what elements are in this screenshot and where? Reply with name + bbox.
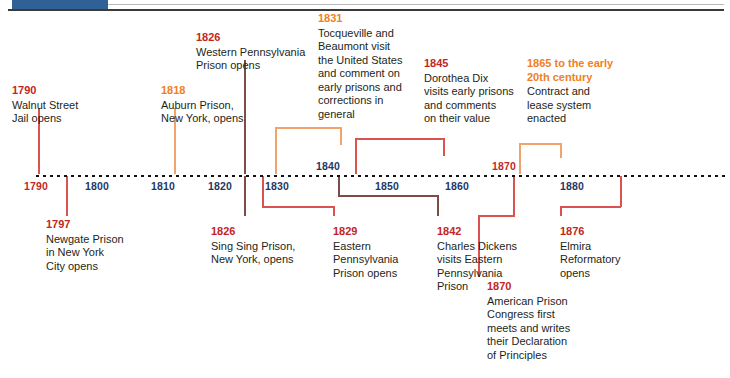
- event-text: Dorothea Dix visits early prisons and co…: [424, 72, 524, 126]
- axis-tick-1820: 1820: [208, 180, 232, 192]
- connector-1797: [66, 176, 68, 216]
- connector-1876-tick: [620, 176, 622, 207]
- event-text: Elmira Reformatory opens: [560, 240, 660, 281]
- event-text: Western Pennsylvania Prison opens: [196, 46, 316, 73]
- connector-1865-tick: [519, 143, 521, 174]
- axis-tick-1810: 1810: [151, 180, 175, 192]
- connector-1842-tick: [338, 176, 340, 196]
- connector-1829-elbow: [262, 206, 334, 208]
- connector-1870-elbow: [478, 215, 515, 217]
- connector-1842-elbow: [338, 195, 438, 197]
- event-below-1829: 1829 Eastern Pennsylvania Prison opens: [333, 225, 433, 280]
- event-text: Walnut Street Jail opens: [12, 99, 122, 126]
- connector-1876-elbow: [560, 206, 621, 208]
- connector-1870-tick: [513, 176, 515, 216]
- event-above-1831: 1831 Tocqueville and Beaumont visit the …: [318, 12, 410, 121]
- axis-tick-1840: 1840: [316, 160, 340, 172]
- event-text: Auburn Prison, New York, opens: [161, 99, 271, 126]
- event-year: 1818: [161, 84, 271, 98]
- header-rule: [8, 9, 724, 11]
- axis-tick-1850: 1850: [375, 180, 399, 192]
- event-text: American Prison Congress first meets and…: [487, 295, 592, 363]
- event-year: 1870: [487, 280, 592, 294]
- event-below-1797: 1797 Newgate Prison in New York City ope…: [46, 218, 156, 273]
- event-text: Eastern Pennsylvania Prison opens: [333, 240, 433, 281]
- axis-tick-1830: 1830: [265, 180, 289, 192]
- event-year: 1876: [560, 225, 660, 239]
- event-below-1826: 1826 Sing Sing Prison, New York, opens: [211, 225, 321, 267]
- event-above-1865: 1865 to the early 20th century Contract …: [527, 57, 637, 126]
- axis-tick-1870: 1870: [492, 160, 516, 172]
- event-below-1876: 1876 Elmira Reformatory opens: [560, 225, 660, 280]
- connector-1845-drop: [443, 138, 445, 156]
- axis-tick-1860: 1860: [445, 180, 469, 192]
- connector-1831-elbow: [275, 127, 341, 129]
- event-year: 1865 to the early 20th century: [527, 57, 637, 84]
- event-above-1818: 1818 Auburn Prison, New York, opens: [161, 84, 271, 126]
- timeline-axis: [34, 173, 726, 177]
- event-year: 1826: [196, 31, 316, 45]
- axis-tick-1790: 1790: [24, 180, 48, 192]
- connector-1831-drop: [340, 127, 342, 145]
- connector-1831-tick: [275, 127, 277, 174]
- header-thin-rule: [108, 4, 724, 5]
- event-year: 1826: [211, 225, 321, 239]
- connector-1845-tick: [355, 138, 357, 174]
- event-text: Newgate Prison in New York City opens: [46, 233, 156, 274]
- connector-1842-drop: [437, 195, 439, 216]
- connector-1829-tick: [262, 176, 264, 207]
- event-above-1845: 1845 Dorothea Dix visits early prisons a…: [424, 57, 524, 126]
- event-text: Contract and lease system enacted: [527, 85, 637, 126]
- event-below-1870: 1870 American Prison Congress first meet…: [487, 280, 592, 362]
- connector-1876-drop: [560, 206, 562, 216]
- axis-tick-1880: 1880: [560, 180, 584, 192]
- axis-tick-1800: 1800: [85, 180, 109, 192]
- connector-1829-drop: [333, 206, 335, 216]
- event-year: 1790: [12, 84, 122, 98]
- event-year: 1845: [424, 57, 524, 71]
- event-year: 1831: [318, 12, 410, 26]
- connector-1826-below: [244, 176, 246, 216]
- header-accent-bar: [12, 0, 108, 9]
- connector-1865-drop: [560, 143, 562, 158]
- connector-1865-elbow: [519, 143, 561, 145]
- event-year: 1797: [46, 218, 156, 232]
- event-above-1790: 1790 Walnut Street Jail opens: [12, 84, 122, 126]
- timeline-infographic: 1790 1800 1810 1820 1830 1850 1860 1880 …: [0, 0, 730, 378]
- event-year: 1842: [437, 225, 542, 239]
- event-text: Tocqueville and Beaumont visit the Unite…: [318, 27, 410, 122]
- event-text: Sing Sing Prison, New York, opens: [211, 240, 321, 267]
- event-above-1826: 1826 Western Pennsylvania Prison opens: [196, 31, 316, 73]
- connector-1845-elbow: [355, 138, 444, 140]
- event-year: 1829: [333, 225, 433, 239]
